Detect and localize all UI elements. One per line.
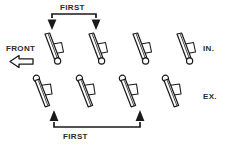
valve-in-1 xyxy=(45,33,64,64)
valve-in-4 xyxy=(177,33,196,64)
bottom-first-bracket xyxy=(50,110,145,127)
exhaust-row-label: EX. xyxy=(203,93,217,101)
valve-ex-2 xyxy=(76,75,95,107)
bottom-first-label: FIRST xyxy=(63,133,88,141)
top-first-label: FIRST xyxy=(60,4,85,12)
valve-ex-3 xyxy=(119,75,138,107)
top-first-bracket xyxy=(48,14,101,30)
valve-ex-4 xyxy=(162,75,181,107)
intake-row xyxy=(45,33,196,64)
valve-in-3 xyxy=(133,33,152,64)
front-label: FRONT xyxy=(6,45,35,53)
valve-ex-1 xyxy=(33,75,52,107)
front-arrow-icon xyxy=(10,56,33,68)
diagram-canvas xyxy=(0,0,229,146)
intake-row-label: IN. xyxy=(203,45,214,53)
valve-adjustment-diagram: FIRST FIRST FRONT IN. EX. xyxy=(0,0,229,146)
exhaust-row xyxy=(33,75,181,107)
valve-in-2 xyxy=(89,33,108,64)
